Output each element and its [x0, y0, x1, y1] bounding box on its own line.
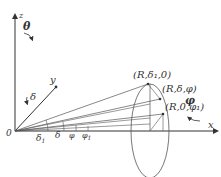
ray-to-p2 [15, 99, 160, 131]
delta-rotation-arrow [27, 97, 28, 103]
z-axis-label: z [18, 11, 24, 20]
phi-rotation-arrow [189, 118, 200, 121]
point-p2-label: (R,δ,φ) [162, 83, 197, 94]
theta-label: θ [23, 20, 31, 33]
delta-b-label: δ [55, 130, 60, 140]
delta1-label: δ1 [36, 133, 45, 144]
diag-construction [150, 114, 163, 131]
spherical-coordinate-diagram: z θ y δ 0 x φ δ1 δ φ φ1 (R,δ₁,0) (R,δ,φ)… [0, 0, 221, 177]
theta-rotation-arrow [24, 33, 32, 39]
point-p3 [162, 113, 165, 116]
point-p1-label: (R,δ₁,0) [133, 69, 171, 80]
origin-label: 0 [6, 128, 12, 138]
diagram-canvas: z θ y δ 0 x φ δ1 δ φ φ1 (R,δ₁,0) (R,δ,φ)… [0, 0, 221, 177]
y-axis-label: y [49, 74, 56, 85]
phi1-label: φ1 [82, 131, 91, 141]
point-p2 [159, 98, 162, 101]
point-p3-label: (R,0,φ₁) [165, 101, 204, 112]
phi-b-label: φ [69, 131, 75, 140]
delta-label: δ [30, 91, 36, 102]
ray-mid-3 [15, 124, 150, 131]
ray-to-p3 [15, 114, 163, 131]
ray-mid-2 [15, 118, 150, 131]
y-axis-end-dot [55, 86, 58, 89]
point-p1 [147, 83, 150, 86]
x-axis-label: x [208, 119, 214, 130]
